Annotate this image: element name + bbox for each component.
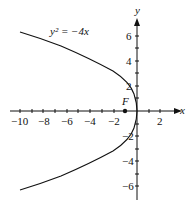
x-tick-label: 2: [157, 116, 163, 127]
plot-area: [0, 0, 193, 205]
x-tick-label: −10: [11, 116, 28, 127]
x-tick-label: −4: [84, 116, 96, 127]
x-tick-label: −8: [38, 116, 50, 127]
y-axis-label: y: [135, 5, 140, 16]
y-tick-label: 4: [126, 56, 132, 67]
y-axis-arrow-icon: [134, 18, 140, 26]
x-tick-label: −2: [108, 116, 120, 127]
y-tick-label: 6: [126, 31, 132, 42]
y-tick-label: 2: [126, 81, 132, 92]
x-tick-label: −6: [61, 116, 73, 127]
x-axis-label: x: [180, 105, 185, 116]
y-tick-label: −6: [122, 181, 134, 192]
equation-label: y² = −4x: [50, 26, 89, 37]
focus-label: F: [122, 96, 129, 107]
focus-point: [123, 109, 127, 113]
y-tick-label: −4: [122, 156, 134, 167]
y-tick-label: −2: [122, 131, 134, 142]
